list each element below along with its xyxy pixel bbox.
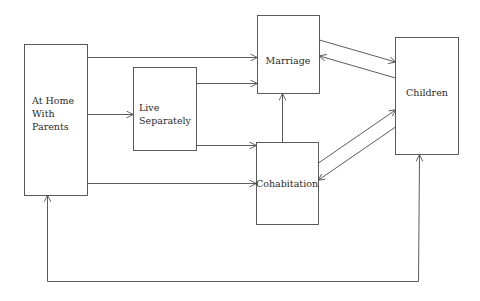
label-at-home-line2: With — [32, 108, 55, 119]
label-at-home-line1: At Home — [31, 95, 75, 106]
label-cohabitation: Cohabitation — [256, 178, 318, 189]
label-children: Children — [406, 87, 448, 98]
family-transition-diagram: At Home With Parents Live Separately Mar… — [0, 0, 480, 301]
edge-children-home-loop — [48, 155, 420, 282]
label-at-home-line3: Parents — [32, 121, 69, 132]
label-live-separately-line2: Separately — [139, 115, 192, 126]
node-at-home-with-parents — [25, 45, 88, 196]
label-marriage: Marriage — [266, 55, 311, 66]
label-live-separately-line1: Live — [139, 102, 160, 113]
edge-children-to-cohabitation — [319, 127, 396, 180]
edge-children-to-marriage — [320, 56, 396, 78]
edge-cohabitation-to-children — [319, 110, 396, 163]
edge-marriage-to-children — [320, 40, 396, 62]
